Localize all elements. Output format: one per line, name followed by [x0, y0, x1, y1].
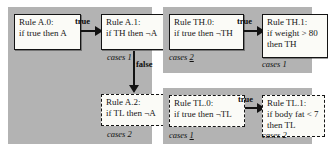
node-rule-tl0-line-2: if true then ¬TL: [174, 109, 241, 120]
case-label-rule-tl1-number: 2: [283, 130, 287, 140]
node-rule-a2-line-2: if TL then ¬A: [106, 108, 165, 119]
case-label-rule-th0: cases 2: [169, 52, 194, 62]
node-rule-th1-line-2: if weight > 80: [267, 28, 324, 39]
node-rule-tl0: Rule TL.0: if true then ¬TL: [169, 95, 245, 127]
node-rule-a1-line-1: Rule A.1:: [106, 17, 165, 28]
node-rule-th0-line-1: Rule TH.0:: [174, 17, 240, 28]
node-rule-th1-line-3: then TH: [267, 39, 324, 50]
case-label-rule-a2: cases 2: [107, 129, 132, 139]
case-label-rule-a1: cases 1: [107, 52, 132, 62]
edge-a0-a1-label: true: [75, 16, 90, 26]
edge-a0-a1-line: [81, 30, 96, 32]
node-rule-tl1-line-2: if body fat < 7: [267, 109, 321, 120]
case-label-rule-a2-word: cases: [107, 129, 125, 139]
node-rule-a1-line-2: if TH then ¬A: [106, 28, 165, 39]
node-rule-a1: Rule A.1: if TH then ¬A: [101, 14, 169, 50]
node-rule-a0-line-2: if true then A: [19, 28, 77, 39]
node-rule-th0: Rule TH.0: if true then ¬TH: [169, 14, 244, 50]
case-label-rule-th1-word: cases: [262, 59, 280, 69]
edge-tl0-tl1-label: true: [238, 94, 253, 104]
edge-a1-a2-line: [133, 51, 135, 87]
edge-a1-a2-label: false: [136, 59, 153, 69]
case-label-rule-th0-number: 2: [190, 52, 194, 62]
node-rule-a0-line-1: Rule A.0:: [19, 17, 77, 28]
case-label-rule-a1-number: 1: [128, 52, 132, 62]
case-label-rule-a2-number: 2: [128, 129, 132, 139]
node-rule-th1-line-1: Rule TH.1:: [267, 17, 324, 28]
node-rule-a0: Rule A.0: if true then A: [14, 14, 81, 50]
node-rule-th0-line-2: if true then ¬TH: [174, 28, 240, 39]
edge-th0-th1-label: true: [237, 16, 252, 26]
case-label-rule-th0-word: cases: [169, 52, 187, 62]
case-label-rule-tl1: cases 2: [262, 130, 287, 140]
node-rule-tl0-line-1: Rule TL.0:: [174, 98, 241, 109]
case-label-rule-tl0-number: 1: [190, 130, 194, 140]
node-rule-a2-line-1: Rule A.2:: [106, 97, 165, 108]
case-label-rule-th1-number: 1: [283, 59, 287, 69]
case-label-rule-tl0-word: cases: [169, 130, 187, 140]
node-rule-th1: Rule TH.1: if weight > 80 then TH: [262, 14, 328, 58]
case-label-rule-tl0: cases 1: [169, 130, 194, 140]
case-label-rule-a1-word: cases: [107, 52, 125, 62]
node-rule-a2: Rule A.2: if TL then ¬A: [101, 94, 169, 126]
case-label-rule-th1: cases 1: [262, 59, 287, 69]
node-rule-tl1-line-1: Rule TL.1:: [267, 98, 321, 109]
case-label-rule-tl1-word: cases: [262, 130, 280, 140]
edge-a1-a2-arrowhead-icon: [129, 85, 139, 93]
edge-th0-th1-line: [244, 30, 258, 32]
